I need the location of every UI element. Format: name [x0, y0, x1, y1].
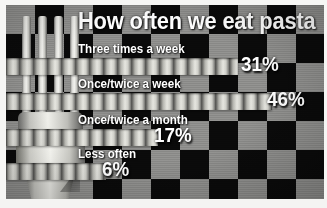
- chart-title: How often we eat pasta: [78, 8, 315, 35]
- category-label: Once/twice a week: [78, 77, 181, 91]
- bar-once-twice-a-week: [6, 93, 272, 110]
- bottom-margin: [0, 199, 327, 208]
- pasta-frequency-infographic: How often we eat pasta Three times a wee…: [0, 0, 327, 208]
- category-label: Three times a week: [78, 42, 185, 56]
- bar-less-often: [6, 163, 106, 180]
- bar-three-times-a-week: [6, 58, 238, 75]
- value-label: 46%: [267, 88, 305, 111]
- value-label: 6%: [102, 158, 129, 181]
- left-margin: [0, 0, 6, 208]
- value-label: 17%: [154, 124, 192, 147]
- top-margin: [0, 0, 327, 5]
- bar-once-twice-a-month: [6, 129, 158, 146]
- value-label: 31%: [241, 53, 279, 76]
